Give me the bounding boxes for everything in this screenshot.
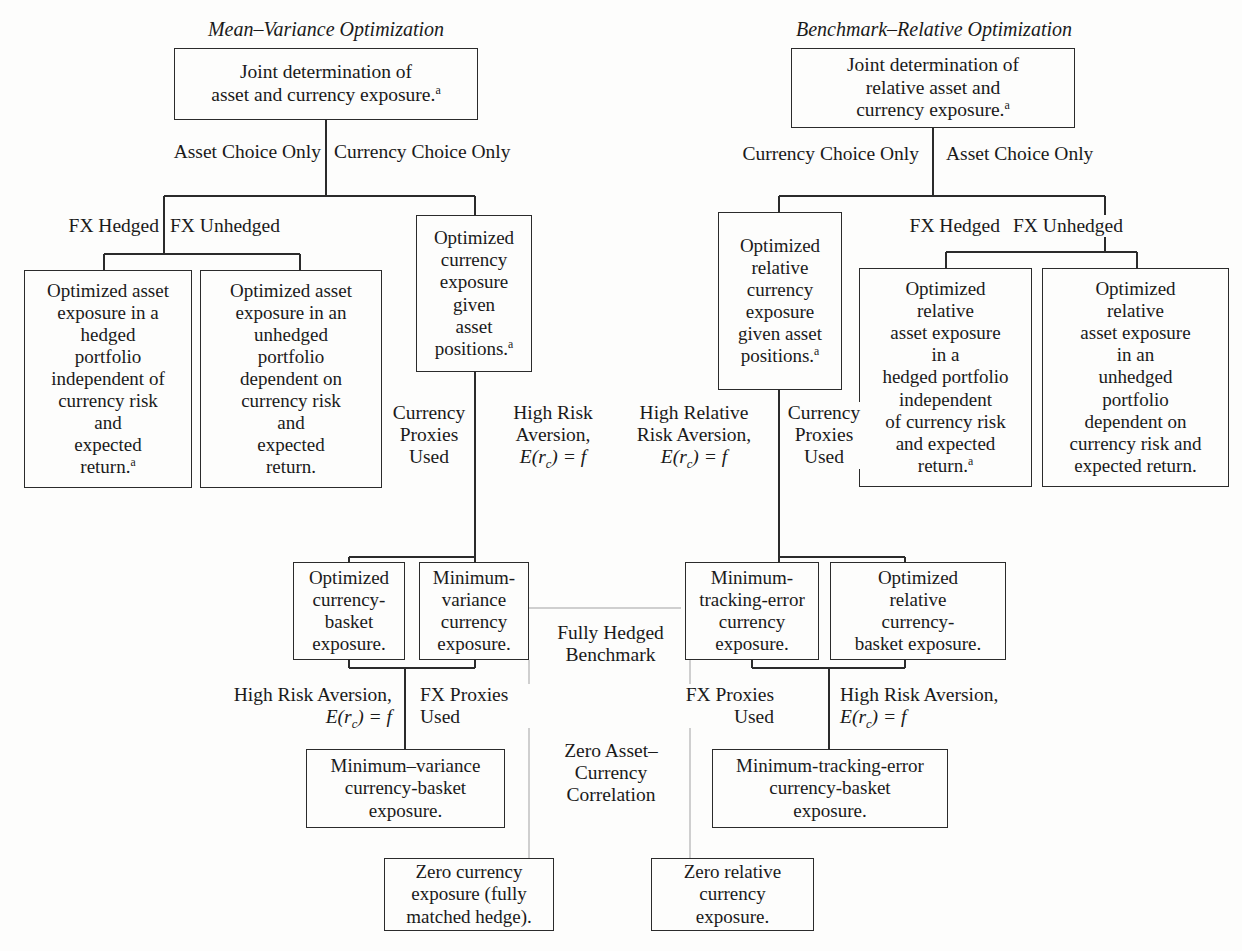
edgelabel-mv-high-risk-aversion-2: High Risk Aversion,E(rc) = f bbox=[178, 684, 392, 728]
caption-mean-variance: Mean–Variance Optimization bbox=[180, 18, 472, 41]
diagram-canvas: Mean–Variance Optimization Benchmark–Rel… bbox=[0, 0, 1242, 951]
edgelabel-mv-fx-proxies: FX ProxiesUsed bbox=[420, 684, 532, 728]
node-br-minte-basket[interactable]: Minimum-tracking-errorcurrency-basketexp… bbox=[712, 749, 948, 828]
edgelabel-br-asset-choice: Asset Choice Only bbox=[946, 143, 1162, 165]
node-mv-minvar-basket[interactable]: Minimum–variancecurrency-basketexposure. bbox=[306, 749, 505, 828]
edgelabel-mv-fx-hedged: FX Hedged bbox=[40, 215, 159, 237]
edgelabel-br-currency-choice: Currency Choice Only bbox=[690, 143, 919, 165]
node-br-hedged[interactable]: Optimizedrelativeasset exposurein ahedge… bbox=[859, 268, 1032, 487]
node-mv-hedged[interactable]: Optimized assetexposure in ahedgedportfo… bbox=[24, 270, 192, 488]
node-br-minte[interactable]: Minimum-tracking-errorcurrencyexposure. bbox=[685, 562, 819, 660]
edgelabel-br-high-risk-aversion: High Risk Aversion,E(rc) = f bbox=[840, 684, 1054, 728]
node-mv-currency[interactable]: Optimizedcurrencyexposuregivenassetposit… bbox=[416, 215, 532, 372]
node-mv-minvar[interactable]: Minimum-variancecurrencyexposure. bbox=[419, 562, 529, 660]
edgelabel-mv-currency-proxies: CurrencyProxiesUsed bbox=[389, 402, 469, 469]
edgelabel-mv-fx-unhedged: FX Unhedged bbox=[170, 215, 312, 237]
node-br-zero[interactable]: Zero relativecurrencyexposure. bbox=[651, 858, 814, 931]
edgelabel-br-fx-hedged: FX Hedged bbox=[881, 215, 1000, 237]
caption-benchmark-relative: Benchmark–Relative Optimization bbox=[788, 18, 1080, 41]
edgelabel-zero-asset-currency-correlation: Zero Asset–CurrencyCorrelation bbox=[545, 740, 677, 807]
edgelabel-mv-currency-choice: Currency Choice Only bbox=[334, 141, 564, 163]
edgelabel-br-currency-proxies: CurrencyProxiesUsed bbox=[784, 402, 864, 469]
node-br-root[interactable]: Joint determination ofrelative asset and… bbox=[791, 48, 1075, 128]
node-mv-basket[interactable]: Optimizedcurrency-basketexposure. bbox=[293, 562, 405, 660]
edgelabel-mv-asset-choice: Asset Choice Only bbox=[106, 141, 321, 163]
edgelabel-br-fx-unhedged: FX Unhedged bbox=[1013, 215, 1155, 237]
edgelabel-mv-high-risk-aversion: High RiskAversion,E(rc) = f bbox=[498, 402, 608, 469]
node-br-unhedged[interactable]: Optimizedrelativeasset exposurein anunhe… bbox=[1042, 268, 1229, 487]
node-mv-root[interactable]: Joint determination ofasset and currency… bbox=[174, 48, 478, 120]
node-br-currency[interactable]: Optimizedrelativecurrencyexposuregiven a… bbox=[718, 212, 842, 390]
edgelabel-br-fx-proxies: FX ProxiesUsed bbox=[662, 684, 774, 728]
edgelabel-fully-hedged-benchmark: Fully HedgedBenchmark bbox=[538, 622, 683, 666]
node-mv-zero[interactable]: Zero currencyexposure (fullymatched hedg… bbox=[384, 858, 554, 931]
node-mv-unhedged[interactable]: Optimized assetexposure in anunhedgedpor… bbox=[200, 270, 382, 488]
edgelabel-br-high-relative-risk-aversion: High RelativeRisk Aversion,E(rc) = f bbox=[620, 402, 768, 469]
node-br-basket[interactable]: Optimizedrelativecurrency-basket exposur… bbox=[830, 562, 1006, 660]
